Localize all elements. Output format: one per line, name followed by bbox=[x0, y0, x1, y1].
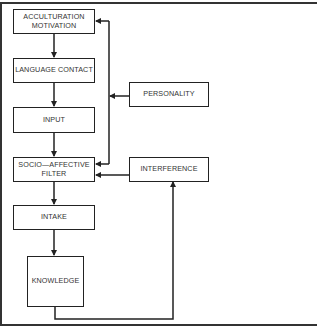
node-personality: PERSONALITY bbox=[129, 82, 209, 107]
node-label: INTERFERENCE bbox=[140, 165, 197, 173]
node-knowledge: KNOWLEDGE bbox=[27, 256, 84, 307]
node-label: PERSONALITY bbox=[143, 90, 194, 98]
node-label: KNOWLEDGE bbox=[32, 277, 80, 285]
node-label: SOCIO—AFFECTIVEFILTER bbox=[18, 161, 89, 178]
node-input: INPUT bbox=[13, 107, 95, 133]
node-interference: INTERFERENCE bbox=[129, 157, 209, 182]
node-label: INTAKE bbox=[41, 213, 67, 221]
node-label: LANGUAGE CONTACT bbox=[15, 66, 93, 74]
node-acculturation-motivation: ACCULTURATIONMOTIVATION bbox=[13, 9, 95, 34]
node-language-contact: LANGUAGE CONTACT bbox=[13, 58, 95, 83]
node-label: ACCULTURATIONMOTIVATION bbox=[23, 13, 84, 30]
node-label: INPUT bbox=[43, 116, 65, 124]
node-intake: INTAKE bbox=[13, 205, 95, 230]
node-socio-affective-filter: SOCIO—AFFECTIVEFILTER bbox=[13, 157, 95, 182]
